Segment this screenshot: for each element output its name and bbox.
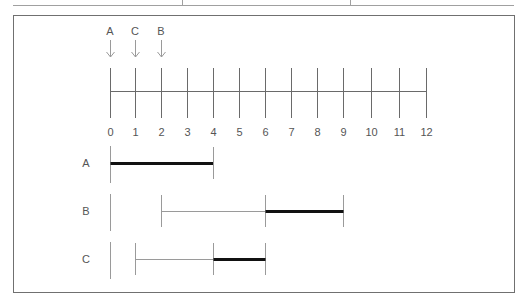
marker-label-c: C — [131, 25, 139, 37]
marker-label-a: A — [106, 25, 114, 37]
row-label-a: A — [82, 157, 90, 169]
row-label-b: B — [82, 205, 89, 217]
diagram-frame — [14, 16, 515, 293]
marker-label-b: B — [157, 25, 164, 37]
axis-tick-label: 12 — [420, 126, 432, 138]
axis-tick-label: 4 — [210, 126, 216, 138]
axis-tick-label: 8 — [314, 126, 320, 138]
axis-tick-label: 7 — [288, 126, 294, 138]
axis-tick-label: 11 — [394, 126, 405, 138]
axis-tick-label: 9 — [340, 126, 346, 138]
timeline-diagram: ACB0123456789101112ABC — [0, 0, 523, 294]
table-fragment — [13, 0, 514, 6]
axis-tick-label: 6 — [262, 126, 268, 138]
axis-tick-label: 2 — [158, 126, 164, 138]
axis-tick-label: 10 — [365, 126, 377, 138]
axis-tick-label: 1 — [132, 126, 138, 138]
axis-tick-label: 5 — [236, 126, 242, 138]
axis-tick-label: 0 — [107, 126, 113, 138]
row-label-c: C — [82, 253, 90, 265]
axis-tick-label: 3 — [184, 126, 190, 138]
